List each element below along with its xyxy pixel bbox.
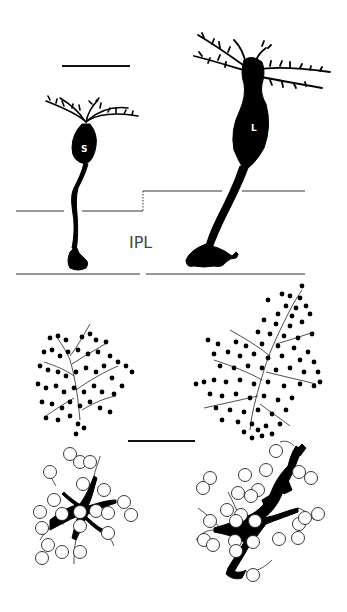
axon-terminal-s — [34, 448, 138, 565]
bipolar-cell-s — [46, 96, 138, 270]
axon-terminal-l — [196, 441, 325, 581]
label-ipl: IPL — [129, 233, 152, 252]
dendritic-field-l — [194, 284, 323, 441]
figure-canvas: S L IPL — [0, 0, 347, 612]
label-cell-s: S — [81, 144, 87, 154]
dendritic-field-s — [36, 324, 135, 436]
ipl-boundaries — [16, 191, 305, 274]
label-cell-l: L — [251, 123, 257, 133]
bipolar-cell-l — [186, 33, 330, 267]
